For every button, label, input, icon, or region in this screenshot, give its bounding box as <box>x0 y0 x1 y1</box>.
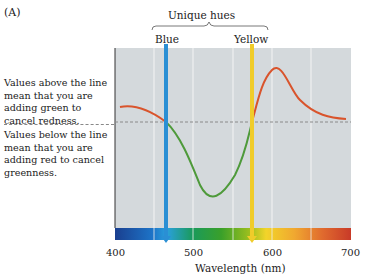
xtick-700: 700 <box>341 247 360 258</box>
yellow-label: Yellow <box>234 33 268 45</box>
xtick-500: 500 <box>184 247 203 258</box>
annotation-separator <box>4 124 114 125</box>
blue-label: Blue <box>155 33 179 45</box>
annotation-below: Values below the line mean that you are … <box>4 129 112 179</box>
x-axis-label: Wavelength (nm) <box>195 262 286 274</box>
bracket <box>152 22 268 30</box>
xtick-600: 600 <box>263 247 282 258</box>
annotation-above: Values above the line mean that you are … <box>4 77 112 127</box>
xtick-400: 400 <box>106 247 125 258</box>
